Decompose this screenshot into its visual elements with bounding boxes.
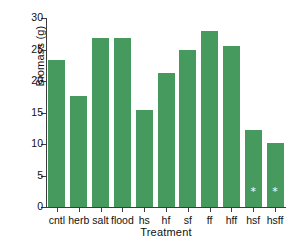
bar-hs[interactable] bbox=[136, 110, 153, 207]
x-tick-label-herb: herb bbox=[68, 214, 89, 226]
y-tick-label: 10 bbox=[31, 137, 43, 149]
x-tick-mark-cntl bbox=[57, 208, 58, 212]
plot-area: 051015202530 ** cntlherbsaltfloodhshfsff… bbox=[46, 18, 286, 208]
y-tick-label: 30 bbox=[31, 11, 43, 23]
bar-hsff[interactable]: * bbox=[267, 143, 284, 207]
x-tick-mark-sf bbox=[188, 208, 189, 212]
y-tick-label: 25 bbox=[31, 43, 43, 55]
x-axis-title: Treatment bbox=[46, 226, 286, 238]
x-tick-mark-hs bbox=[144, 208, 145, 212]
y-tick-label: 5 bbox=[37, 169, 43, 181]
significance-asterisk-hsf: * bbox=[251, 189, 257, 195]
y-tick-label: 15 bbox=[31, 106, 43, 118]
x-tick-mark-flood bbox=[122, 208, 123, 212]
bar-chart-figure: Biomass (g) 051015202530 ** cntlherbsalt… bbox=[0, 0, 306, 252]
x-tick-label-hff: hff bbox=[226, 214, 237, 226]
x-tick-label-cntl: cntl bbox=[49, 214, 65, 226]
significance-asterisk-hsff: * bbox=[272, 189, 278, 195]
y-axis-line bbox=[46, 18, 47, 208]
bar-ff[interactable] bbox=[201, 31, 218, 207]
x-tick-mark-hff bbox=[231, 208, 232, 212]
x-tick-label-sf: sf bbox=[184, 214, 192, 226]
x-tick-label-hf: hf bbox=[162, 214, 171, 226]
x-tick-label-hsf: hsf bbox=[246, 214, 260, 226]
bar-flood[interactable] bbox=[114, 38, 131, 207]
x-tick-label-flood: flood bbox=[111, 214, 134, 226]
x-tick-label-hsff: hsff bbox=[267, 214, 284, 226]
bar-cntl[interactable] bbox=[48, 60, 65, 207]
bar-sf[interactable] bbox=[179, 50, 196, 208]
x-tick-mark-herb bbox=[79, 208, 80, 212]
x-tick-mark-ff bbox=[210, 208, 211, 212]
bar-hsf[interactable]: * bbox=[245, 130, 262, 207]
x-tick-label-hs: hs bbox=[139, 214, 150, 226]
x-tick-label-salt: salt bbox=[92, 214, 108, 226]
x-tick-mark-salt bbox=[101, 208, 102, 212]
y-tick-label: 0 bbox=[37, 200, 43, 212]
bar-hff[interactable] bbox=[223, 46, 240, 207]
bar-herb[interactable] bbox=[70, 96, 87, 207]
x-tick-mark-hsf bbox=[253, 208, 254, 212]
bar-hf[interactable] bbox=[158, 73, 175, 207]
y-tick-label: 20 bbox=[31, 74, 43, 86]
bar-salt[interactable] bbox=[92, 38, 109, 207]
x-tick-label-ff: ff bbox=[207, 214, 213, 226]
x-tick-mark-hsff bbox=[275, 208, 276, 212]
x-tick-mark-hf bbox=[166, 208, 167, 212]
